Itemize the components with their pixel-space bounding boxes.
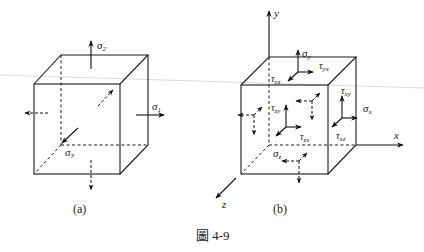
label-tau-xz: τxz xyxy=(336,130,346,143)
panel-a-stress-arrows xyxy=(25,41,164,190)
label-tau-yz: τyz xyxy=(271,73,281,86)
label-sigma-y: σy xyxy=(302,47,311,61)
label-tau-zy: τzy xyxy=(271,102,281,115)
panel-b-cube xyxy=(241,57,356,174)
label-sigma-z: σz xyxy=(273,147,281,161)
panel-b-label: (b) xyxy=(273,202,287,216)
panel-b-axes xyxy=(216,11,403,198)
axis-label-y: y xyxy=(273,7,279,19)
panel-b-labels: y x z σy σx σz τyx τyz τxy τxz τzy τzx (… xyxy=(221,7,399,216)
label-sigma-3: σ3 xyxy=(65,146,74,160)
panel-a-labels: σ2 σ1 σ3 (a) xyxy=(65,39,161,216)
label-sigma-x: σx xyxy=(363,102,372,116)
axis-label-z: z xyxy=(221,198,227,210)
panel-a-label: (a) xyxy=(73,202,86,216)
figure-caption: 圖 4-9 xyxy=(196,228,230,243)
scan-artifact-line xyxy=(0,75,424,88)
figure-4-9: σ2 σ1 σ3 (a) xyxy=(0,0,424,252)
axis-label-x: x xyxy=(393,129,399,141)
label-tau-yx: τyx xyxy=(319,60,330,73)
label-tau-zx: τzx xyxy=(300,131,310,144)
label-sigma-2: σ2 xyxy=(97,39,106,53)
panel-a-cube xyxy=(34,55,148,174)
label-sigma-1: σ1 xyxy=(152,100,161,114)
label-tau-xy: τxy xyxy=(341,85,352,98)
